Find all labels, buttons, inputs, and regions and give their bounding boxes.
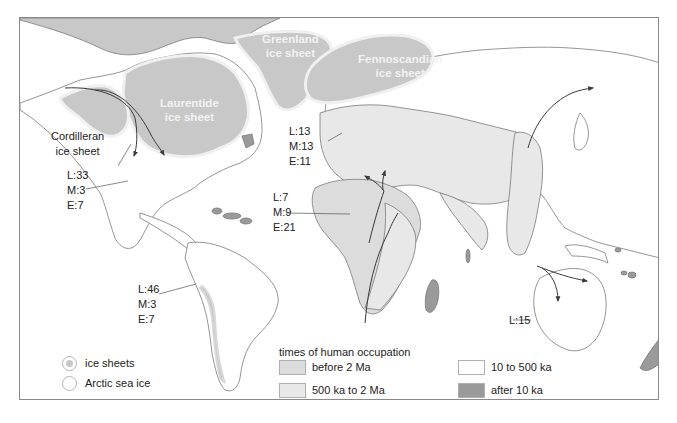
stats-australia: L:15 <box>509 313 530 328</box>
legend-title: times of human occupation <box>279 346 410 359</box>
stat-line: M:9 <box>273 205 296 220</box>
label-line: Fennoscandian <box>358 52 442 66</box>
australia <box>534 245 659 371</box>
world-map: Greenland ice sheet Laurentide ice sheet… <box>19 17 659 400</box>
stat-line: M:3 <box>67 183 88 198</box>
label-line: Greenland <box>262 32 319 46</box>
stat-line: E:21 <box>273 220 296 235</box>
south-america <box>185 242 278 391</box>
label-laurentide: Laurentide ice sheet <box>160 96 219 124</box>
stat-line: E:7 <box>138 312 159 327</box>
label-line: ice sheet <box>160 110 219 124</box>
stat-line: L:15 <box>509 313 530 328</box>
label-line: ice sheet <box>262 46 319 60</box>
legend-after-10ka: after 10 ka <box>491 384 543 397</box>
africa <box>312 179 439 314</box>
stats-africa: L:7 M:9 E:21 <box>273 190 296 235</box>
arctic-sea-ice-swatch-icon <box>62 376 77 391</box>
stat-line: E:7 <box>67 198 88 213</box>
before-2ma-swatch <box>279 360 306 375</box>
legend-arctic-sea-ice: Arctic sea ice <box>85 377 150 390</box>
stat-line: M:13 <box>289 139 313 154</box>
stats-south-america: L:46 M:3 E:7 <box>138 282 159 327</box>
label-cordilleran: Cordilleran ice sheet <box>51 129 104 159</box>
label-line: Cordilleran <box>51 129 104 144</box>
ice-sheets-swatch-icon <box>62 356 77 371</box>
stat-line: M:3 <box>138 297 159 312</box>
stats-europe: L:13 M:13 E:11 <box>289 124 313 169</box>
legend-500ka-2ma: 500 ka to 2 Ma <box>312 384 385 397</box>
stat-line: L:7 <box>273 190 296 205</box>
legend-10-500ka: 10 to 500 ka <box>491 361 552 374</box>
500ka-2ma-swatch <box>279 383 306 398</box>
label-line: ice sheet <box>51 144 104 159</box>
stat-line: E:11 <box>289 154 313 169</box>
stat-line: L:33 <box>67 168 88 183</box>
label-greenland: Greenland ice sheet <box>262 32 319 60</box>
10-500ka-swatch <box>458 360 485 375</box>
stat-line: L:46 <box>138 282 159 297</box>
after-10ka-swatch <box>458 383 485 398</box>
label-fennoscandian: Fennoscandian ice sheet <box>358 52 442 80</box>
stats-north-america: L:33 M:3 E:7 <box>67 168 88 213</box>
map-graphic <box>20 18 659 400</box>
label-line: Laurentide <box>160 96 219 110</box>
stat-line: L:13 <box>289 124 313 139</box>
legend-before-2ma: before 2 Ma <box>312 361 371 374</box>
label-line: ice sheet <box>358 66 442 80</box>
legend-ice-sheets: ice sheets <box>85 357 135 370</box>
